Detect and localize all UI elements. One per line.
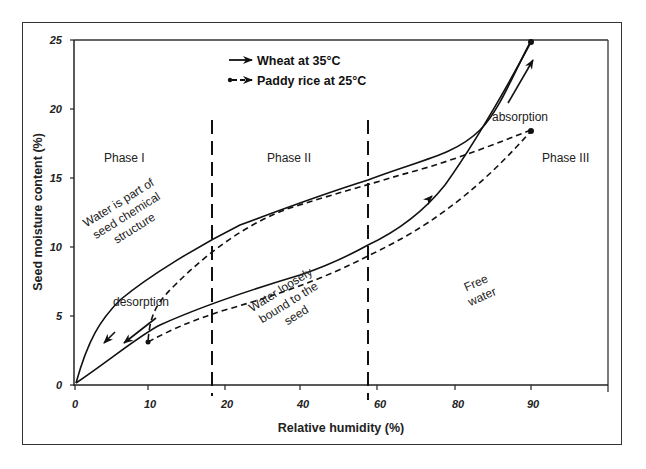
x-tick-labels: 0 10 20 40 60 80 90: [72, 398, 540, 410]
rice-endpoint-marker: [528, 128, 534, 134]
svg-text:20: 20: [49, 103, 63, 115]
phase-3-label: Phase III: [542, 151, 589, 165]
svg-text:25: 25: [49, 34, 63, 46]
rice-startpoint-marker: [146, 340, 151, 345]
desorption-label: desorption: [113, 295, 169, 309]
legend-rice-label: Paddy rice at 25°C: [257, 74, 366, 88]
svg-text:15: 15: [50, 172, 63, 184]
y-axis-title: Seed moisture content (%): [31, 133, 45, 291]
zone-1-description: Water is part of seed chemical structure: [80, 175, 172, 256]
svg-text:40: 40: [296, 398, 310, 410]
x-axis-title: Relative humidity (%): [278, 421, 404, 435]
svg-text:0: 0: [56, 379, 63, 391]
svg-text:20: 20: [220, 398, 234, 410]
zone-3-description: Free water: [459, 271, 499, 310]
y-tick-labels: 0 5 10 15 20 25: [49, 34, 63, 391]
absorption-arrow-icon: [508, 60, 533, 103]
phase-2-label: Phase II: [267, 151, 311, 165]
svg-text:90: 90: [527, 398, 540, 410]
svg-text:10: 10: [144, 398, 157, 410]
series-rice: [148, 130, 531, 342]
chart: 0 5 10 15 20 25 0 10 20 40 60 80 90 Rela…: [0, 0, 646, 469]
zone-2-description: Water loosely bound to the seed: [246, 265, 331, 341]
svg-text:80: 80: [452, 398, 465, 410]
absorption-label: absorption: [492, 110, 548, 124]
svg-text:5: 5: [56, 310, 63, 322]
wheat-endpoint-marker: [528, 39, 534, 45]
phase-1-label: Phase I: [104, 151, 145, 165]
legend: Wheat at 35°C Paddy rice at 25°C: [228, 54, 366, 88]
svg-text:0: 0: [72, 398, 79, 410]
svg-text:60: 60: [374, 398, 387, 410]
legend-wheat-label: Wheat at 35°C: [257, 54, 341, 68]
svg-text:10: 10: [50, 241, 63, 253]
